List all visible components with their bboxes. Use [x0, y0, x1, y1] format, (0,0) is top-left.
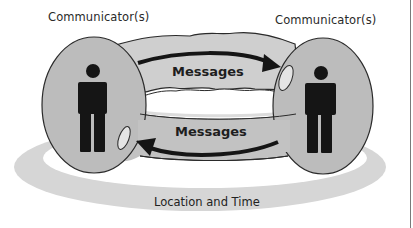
messages-top-label: Messages: [172, 64, 244, 79]
communication-diagram: Communicator(s) Communicator(s) Messages…: [0, 0, 413, 228]
diagram-graphic: [0, 0, 413, 228]
communicator-left-label: Communicator(s): [48, 10, 149, 24]
location-time-label: Location and Time: [154, 195, 260, 209]
messages-bottom-label: Messages: [175, 124, 247, 139]
communicator-right-label: Communicator(s): [275, 13, 376, 27]
frame-border: [410, 0, 411, 228]
